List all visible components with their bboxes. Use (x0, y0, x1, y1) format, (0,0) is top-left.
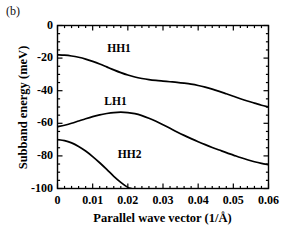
x-tick-label: 0.01 (82, 193, 103, 208)
x-tick-label: 0.02 (117, 193, 138, 208)
curve-hh2 (58, 140, 132, 189)
curve-lh1 (58, 112, 269, 164)
y-tick-label: -80 (37, 148, 53, 163)
x-tick-label: 0 (55, 193, 61, 208)
y-tick-label: -40 (37, 83, 53, 98)
x-tick-label: 0.05 (223, 193, 244, 208)
data-curves (58, 55, 269, 189)
curve-label-hh2: HH2 (118, 148, 142, 160)
x-tick-label: 0.06 (258, 193, 279, 208)
y-tick-label: -20 (37, 50, 53, 65)
curve-label-lh1: LH1 (104, 95, 126, 107)
y-tick-label: 0 (47, 18, 53, 33)
figure-panel-b: (b) Subband energy (meV) Parallel wave v… (0, 0, 285, 233)
axes-frame (58, 26, 269, 189)
y-tick-label-group: 0-20-40-60-80-100 (0, 0, 53, 233)
curve-label-hh1: HH1 (107, 42, 131, 54)
curve-hh1 (58, 55, 269, 107)
x-tick-label: 0.04 (188, 193, 209, 208)
tick-marks (58, 26, 269, 189)
x-tick-label: 0.03 (153, 193, 174, 208)
y-tick-label: -60 (37, 115, 53, 130)
x-axis-title: Parallel wave vector (1/Å) (57, 211, 268, 226)
y-tick-label: -100 (31, 181, 53, 196)
